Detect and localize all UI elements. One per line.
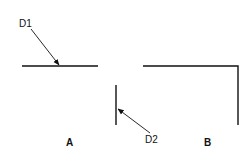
figure-b-label: B	[204, 137, 211, 148]
d2-label: D2	[145, 134, 158, 145]
d1-arrow	[31, 29, 59, 65]
d1-label: D1	[19, 18, 32, 29]
figure-b-corner-line	[143, 66, 238, 125]
figure-a: D1 D2 A	[19, 18, 158, 148]
figure-a-label: A	[66, 137, 73, 148]
d2-arrow	[118, 109, 150, 133]
diagram-canvas: D1 D2 A B	[0, 0, 250, 157]
